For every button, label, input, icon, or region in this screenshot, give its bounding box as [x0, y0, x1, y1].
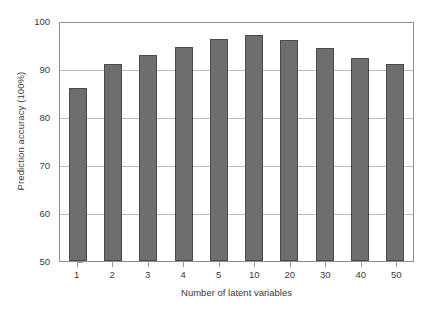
- y-tick-label: 90: [24, 65, 50, 75]
- y-tick-label: 50: [24, 257, 50, 267]
- x-tick-mark: [112, 262, 113, 267]
- bar-slot: [236, 23, 271, 261]
- x-tick-mark: [183, 262, 184, 267]
- bar: [280, 40, 298, 261]
- x-tick-mark: [361, 262, 362, 267]
- y-tick-label: 60: [24, 209, 50, 219]
- bar-slot: [95, 23, 130, 261]
- bar-slot: [342, 23, 377, 261]
- x-tick-mark: [77, 262, 78, 267]
- bar-chart-figure: Prediction accuracy (100%) 5060708090100…: [0, 0, 431, 316]
- x-tick-mark: [290, 262, 291, 267]
- bar-slot: [201, 23, 236, 261]
- bar-slot: [60, 23, 95, 261]
- bar: [316, 48, 334, 261]
- x-tick-mark: [254, 262, 255, 267]
- bar: [245, 35, 263, 261]
- x-tick-label: 30: [305, 269, 345, 280]
- x-tick-mark: [325, 262, 326, 267]
- bar: [175, 47, 193, 261]
- x-tick-mark: [396, 262, 397, 267]
- y-axis-ticks: 5060708090100: [24, 0, 50, 316]
- x-tick-mark: [148, 262, 149, 267]
- x-tick-mark: [219, 262, 220, 267]
- bar: [104, 64, 122, 261]
- bar-slot: [378, 23, 413, 261]
- x-tick-label: 5: [199, 269, 239, 280]
- plot-area: [59, 22, 414, 262]
- bar: [351, 58, 369, 261]
- y-tick-label: 100: [24, 17, 50, 27]
- x-tick-label: 20: [270, 269, 310, 280]
- bar-slot: [166, 23, 201, 261]
- bar: [139, 55, 157, 261]
- bar-series: [60, 23, 413, 261]
- y-tick-label: 70: [24, 161, 50, 171]
- bar: [210, 39, 228, 261]
- x-tick-label: 50: [376, 269, 416, 280]
- x-tick-label: 3: [128, 269, 168, 280]
- y-tick-label: 80: [24, 113, 50, 123]
- x-tick-label: 10: [234, 269, 274, 280]
- x-axis-title: Number of latent variables: [59, 287, 414, 299]
- x-tick-label: 40: [341, 269, 381, 280]
- bar-slot: [131, 23, 166, 261]
- bar: [386, 64, 404, 261]
- bar: [69, 88, 87, 261]
- bar-slot: [272, 23, 307, 261]
- x-tick-label: 2: [92, 269, 132, 280]
- x-tick-label: 1: [57, 269, 97, 280]
- bar-slot: [307, 23, 342, 261]
- x-tick-label: 4: [163, 269, 203, 280]
